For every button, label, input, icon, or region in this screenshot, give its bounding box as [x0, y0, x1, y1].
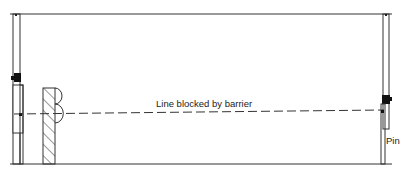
- barrier: [43, 88, 63, 164]
- sight-line: [14, 110, 384, 114]
- pin-label: Pin: [386, 135, 400, 146]
- diagram-canvas: [0, 0, 405, 169]
- barrier-annotation: Line blocked by barrier: [156, 98, 252, 109]
- left-pole: [11, 14, 23, 164]
